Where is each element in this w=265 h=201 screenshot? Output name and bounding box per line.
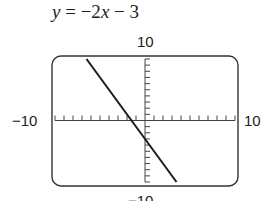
graph-screen — [0, 0, 265, 201]
axes — [55, 59, 235, 182]
